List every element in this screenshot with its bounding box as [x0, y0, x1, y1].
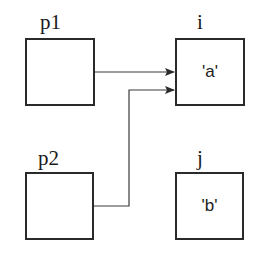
- box-i: 'a': [175, 38, 245, 106]
- label-p1: p1: [40, 12, 61, 33]
- label-i: i: [197, 12, 203, 33]
- box-p2: [25, 172, 94, 240]
- value-i: 'a': [202, 62, 218, 82]
- pointer-diagram: p1 p2 i 'a' j 'b': [0, 0, 261, 256]
- box-p1: [25, 38, 95, 106]
- box-j: 'b': [175, 172, 244, 240]
- arrow-p2-to-i: [93, 90, 174, 206]
- label-j: j: [197, 148, 203, 169]
- value-j: 'b': [202, 196, 218, 216]
- label-p2: p2: [38, 148, 59, 169]
